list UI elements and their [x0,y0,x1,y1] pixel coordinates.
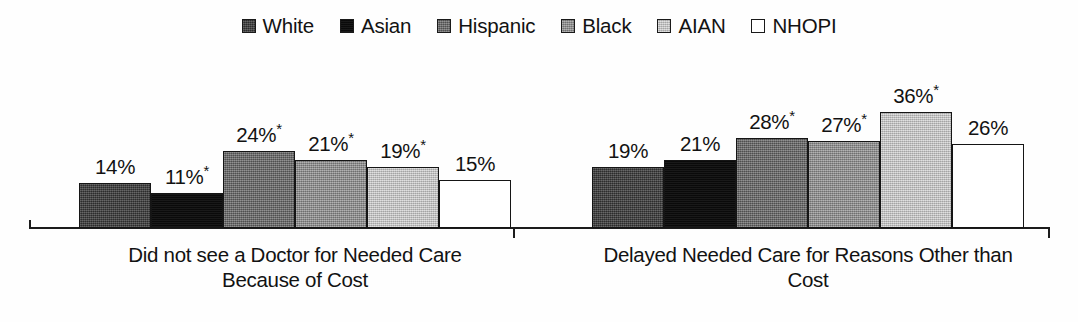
plot-area: 14%11%*24%*21%*19%*15%Did not see a Doct… [0,0,1078,322]
bar-asian-group-2 [664,160,736,228]
significance-marker: * [861,110,867,127]
bar-value-label-hispanic-group-2: 28%* [749,111,795,132]
axis-tick-left [29,220,31,228]
bar-value-label-nhopi-group-1: 15% [455,153,495,174]
group-label-1: Did not see a Doctor for Needed CareBeca… [60,242,530,292]
bar-value-label-nhopi-group-2: 26% [968,117,1008,138]
bar-aian-group-1 [367,167,439,228]
axis-tick-middle [513,229,515,238]
group-label-line-2: Because of Cost [60,267,530,292]
significance-marker: * [420,136,426,153]
bar-value-label-asian-group-2: 21% [680,133,720,154]
bar-value-label-asian-group-1: 11%* [165,166,209,187]
group-label-line-2: Cost [558,267,1058,292]
axis-tick-right [1048,229,1050,238]
bar-nhopi-group-2 [952,144,1024,228]
bar-value-label-black-group-2: 27%* [821,114,867,135]
significance-marker: * [348,129,354,146]
bar-value-label-hispanic-group-1: 24%* [236,124,282,145]
bar-black-group-1 [295,160,367,228]
bar-hispanic-group-2 [736,138,808,228]
bar-nhopi-group-1 [439,180,511,228]
significance-marker: * [933,81,939,98]
bar-white-group-2 [592,167,664,228]
bar-aian-group-2 [880,112,952,228]
bar-chart: White Asian Hispanic Black AIAN NHOPI 14… [0,0,1078,322]
significance-marker: * [789,107,795,124]
group-label-line-1: Did not see a Doctor for Needed Care [60,242,530,267]
group-label-line-1: Delayed Needed Care for Reasons Other th… [558,242,1058,267]
bar-value-label-white-group-1: 14% [95,156,135,177]
significance-marker: * [204,162,210,179]
group-label-2: Delayed Needed Care for Reasons Other th… [558,242,1058,292]
bar-hispanic-group-1 [223,151,295,228]
bar-black-group-2 [808,141,880,228]
bar-value-label-aian-group-2: 36%* [893,85,939,106]
bar-value-label-white-group-2: 19% [608,140,648,161]
bar-value-label-aian-group-1: 19%* [380,140,426,161]
bar-value-label-black-group-1: 21%* [308,133,354,154]
significance-marker: * [276,120,282,137]
bar-asian-group-1 [151,193,223,228]
bar-white-group-1 [79,183,151,228]
